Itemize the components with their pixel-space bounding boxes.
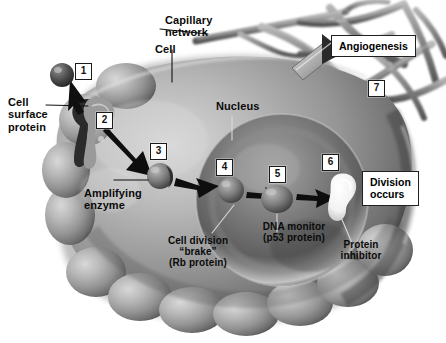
step-marker-2[interactable]: 2 <box>96 112 113 129</box>
label-cell-division-brake: Cell division “brake” (Rb protein) <box>150 235 246 269</box>
signal-molecule-graphic <box>50 63 74 87</box>
step-marker-7[interactable]: 7 <box>368 80 385 97</box>
step-marker-6[interactable]: 6 <box>322 154 339 171</box>
rb-protein-graphic <box>218 177 244 203</box>
callout-division-occurs[interactable]: Division occurs <box>362 171 419 206</box>
label-cell-surface-protein: Cell surface protein <box>8 96 48 133</box>
label-capillary-network: Capillary network <box>165 14 212 39</box>
amplifying-enzyme-graphic <box>147 163 173 189</box>
diagram-canvas: Capillary network Cell Cell surface prot… <box>0 0 446 343</box>
label-nucleus: Nucleus <box>216 100 260 112</box>
label-amplifying-enzyme: Amplifying enzyme <box>84 187 142 212</box>
label-cell: Cell <box>155 43 176 55</box>
step-marker-1[interactable]: 1 <box>75 63 92 80</box>
step-marker-4[interactable]: 4 <box>216 159 233 176</box>
p53-protein-graphic <box>261 185 293 213</box>
step-marker-3[interactable]: 3 <box>150 143 167 160</box>
callout-angiogenesis[interactable]: Angiogenesis <box>331 35 416 57</box>
label-protein-inhibitor: Protein inhibitor <box>328 239 394 261</box>
step-marker-5[interactable]: 5 <box>269 166 286 183</box>
